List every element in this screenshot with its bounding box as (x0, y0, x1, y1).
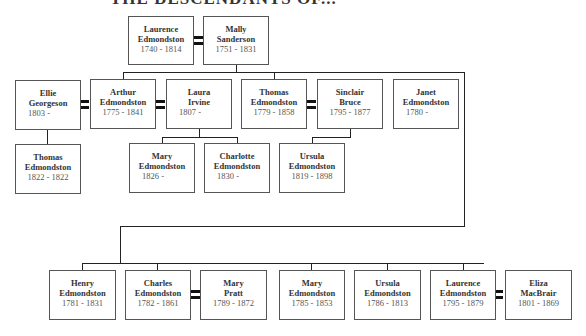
person-first-name: Laurence (129, 24, 193, 34)
diagram-title: THE DESCENDANTS OF... (110, 0, 337, 9)
person-first-name: Mary (130, 151, 194, 161)
person-dates: 1822 - 1822 (16, 172, 80, 182)
person-box[interactable]: Eliza MacBrair 1801 - 1869 (505, 270, 572, 320)
person-first-name: Ursula (355, 278, 420, 288)
person-last-name: Edmondston (50, 288, 115, 298)
person-first-name: Mary (280, 278, 344, 288)
person-dates: 1819 - 1898 (280, 171, 344, 181)
person-box[interactable]: Ellie Georgeson 1803 - (15, 80, 81, 130)
marriage-symbol (194, 36, 203, 45)
person-last-name: Edmondston (355, 288, 420, 298)
person-dates: 1785 - 1853 (280, 298, 344, 308)
connector (120, 226, 465, 227)
connector (47, 129, 48, 145)
person-last-name: Edmondston (280, 288, 344, 298)
person-last-name: Edmondston (126, 288, 190, 298)
person-box[interactable]: Charlotte Edmondston 1830 - (204, 143, 270, 193)
person-last-name: Sanderson (204, 34, 268, 44)
person-last-name: Edmondston (205, 161, 269, 171)
person-first-name: Arthur (91, 87, 155, 97)
person-first-name: Thomas (16, 152, 80, 162)
connector (199, 129, 200, 137)
person-last-name: MacBrair (506, 288, 571, 298)
person-last-name: Edmondston (280, 161, 344, 171)
connector (157, 263, 158, 270)
person-box[interactable]: Laurence Edmondston 1740 - 1814 (128, 16, 194, 65)
person-dates: 1782 - 1861 (126, 298, 190, 308)
person-first-name: Sinclair (318, 87, 382, 97)
person-first-name: Charlotte (205, 151, 269, 161)
person-dates: 1795 - 1877 (318, 107, 382, 117)
person-first-name: Laurence (431, 278, 495, 288)
person-box[interactable]: Janet Edmondston 1780 - (393, 79, 459, 129)
person-first-name: Ursula (280, 151, 344, 161)
person-first-name: Janet (394, 87, 458, 97)
person-dates: 1775 - 1841 (91, 107, 155, 117)
person-dates: 1807 - (167, 107, 231, 117)
person-box[interactable]: Charles Edmondston 1782 - 1861 (125, 270, 191, 320)
person-first-name: Mary (201, 278, 266, 288)
person-box[interactable]: Ursula Edmondston 1786 - 1813 (354, 270, 421, 320)
connector (82, 263, 484, 264)
person-dates: 1801 - 1869 (506, 298, 571, 308)
person-dates: 1826 - (130, 171, 194, 181)
person-box[interactable]: Ursula Edmondston 1819 - 1898 (279, 143, 345, 193)
person-dates: 1795 - 1879 (431, 298, 495, 308)
marriage-symbol (307, 100, 316, 109)
person-last-name: Edmondston (394, 97, 458, 107)
person-box[interactable]: Henry Edmondston 1781 - 1831 (49, 270, 116, 320)
person-first-name: Thomas (242, 87, 306, 97)
connector (120, 226, 121, 263)
person-last-name: Bruce (318, 97, 382, 107)
person-first-name: Eliza (506, 278, 571, 288)
person-box[interactable]: Mary Edmondston 1785 - 1853 (279, 270, 345, 320)
person-dates: 1740 - 1814 (129, 44, 193, 54)
person-dates: 1781 - 1831 (50, 298, 115, 308)
connector (463, 263, 464, 270)
person-box[interactable]: Thomas Edmondston 1779 - 1858 (241, 79, 307, 129)
person-last-name: Edmondston (242, 97, 306, 107)
person-first-name: Charles (126, 278, 190, 288)
connector (123, 72, 124, 79)
person-first-name: Ellie (16, 88, 80, 98)
person-last-name: Edmondston (129, 34, 193, 44)
person-box[interactable]: Mary Pratt 1789 - 1872 (200, 270, 267, 320)
person-box[interactable]: Arthur Edmondston 1775 - 1841 (90, 79, 156, 129)
person-first-name: Henry (50, 278, 115, 288)
person-dates: 1830 - (205, 171, 269, 181)
connector (464, 72, 465, 227)
marriage-symbol (156, 100, 165, 109)
person-box[interactable]: Mally Sanderson 1751 - 1831 (203, 16, 269, 65)
person-last-name: Edmondston (431, 288, 495, 298)
connector (350, 129, 351, 137)
person-dates: 1779 - 1858 (242, 107, 306, 117)
person-box[interactable]: Sinclair Bruce 1795 - 1877 (317, 79, 383, 129)
connector (123, 72, 465, 73)
person-box[interactable]: Mary Edmondston 1826 - (129, 143, 195, 193)
person-first-name: Mally (204, 24, 268, 34)
marriage-symbol (80, 100, 89, 109)
connector (236, 64, 237, 72)
person-box[interactable]: Laurence Edmondston 1795 - 1879 (430, 270, 496, 320)
person-last-name: Edmondston (91, 97, 155, 107)
person-last-name: Edmondston (130, 161, 194, 171)
connector (162, 137, 237, 138)
person-last-name: Pratt (201, 288, 266, 298)
person-first-name: Laura (167, 87, 231, 97)
person-dates: 1780 - (394, 107, 458, 117)
connector (82, 263, 83, 270)
connector (312, 137, 351, 138)
person-dates: 1786 - 1813 (355, 298, 420, 308)
person-dates: 1789 - 1872 (201, 298, 266, 308)
connector (387, 263, 388, 270)
connector (311, 263, 312, 270)
marriage-symbol (191, 290, 200, 299)
connector (274, 72, 275, 79)
person-last-name: Georgeson (16, 98, 80, 108)
person-last-name: Edmondston (16, 162, 80, 172)
person-dates: 1751 - 1831 (204, 44, 268, 54)
person-dates: 1803 - (16, 108, 80, 118)
person-box[interactable]: Laura Irvine 1807 - (166, 79, 232, 129)
person-last-name: Irvine (167, 97, 231, 107)
person-box[interactable]: Thomas Edmondston 1822 - 1822 (15, 144, 81, 194)
